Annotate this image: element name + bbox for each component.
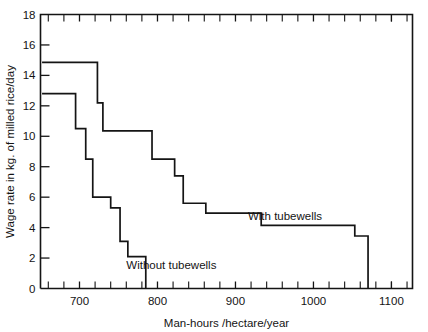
y-tick-label-2: 2 [29, 252, 35, 264]
y-tick-label-10: 10 [23, 130, 36, 142]
chart-figure: 02468101214161870080090010001100Without … [0, 0, 428, 332]
x-tick-label-1100: 1100 [379, 295, 404, 307]
x-tick-label-1000: 1000 [301, 295, 327, 307]
step-chart-svg: 02468101214161870080090010001100Without … [0, 0, 428, 332]
plot-frame [41, 15, 413, 289]
y-tick-label-0: 0 [29, 283, 35, 295]
series-label-without-tubewells: Without tubewells [126, 259, 216, 271]
y-tick-label-16: 16 [23, 39, 36, 51]
x-tick-label-800: 800 [148, 295, 167, 307]
series-line-with-tubewells [42, 62, 368, 288]
series-label-with-tubewells: With tubewells [248, 210, 322, 222]
y-axis-title: Wage rate in kg. of milled rice/day [4, 65, 16, 238]
x-tick-label-700: 700 [70, 295, 89, 307]
y-tick-label-4: 4 [29, 222, 36, 234]
x-axis-title: Man-hours /hectare/year [164, 317, 289, 329]
y-tick-label-18: 18 [23, 9, 36, 21]
y-tick-label-8: 8 [29, 161, 35, 173]
y-tick-label-14: 14 [23, 69, 36, 81]
y-tick-label-6: 6 [29, 191, 35, 203]
y-tick-label-12: 12 [23, 100, 36, 112]
x-tick-label-900: 900 [226, 295, 245, 307]
